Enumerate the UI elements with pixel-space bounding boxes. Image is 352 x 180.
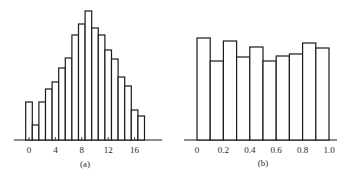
histogram-b: 00.20.40.60.81.0 (b) (184, 38, 337, 168)
bar (250, 47, 263, 140)
bar (112, 59, 119, 140)
tick-label: 16 (130, 145, 140, 155)
bar (72, 35, 79, 140)
tick-label: 12 (104, 145, 113, 155)
tick-label: 0.2 (218, 145, 229, 155)
bar (65, 58, 72, 140)
bar (46, 89, 53, 140)
caption-b: (b) (258, 158, 269, 168)
bar (289, 54, 302, 140)
bar (32, 125, 39, 140)
tick-label: 8 (80, 145, 85, 155)
bar (92, 28, 99, 140)
tick-label: 0 (27, 145, 32, 155)
tick-label: 4 (53, 145, 58, 155)
histogram-a: 0481216 (a) (14, 11, 162, 169)
bar (85, 11, 92, 140)
bar (237, 57, 250, 140)
bar (197, 38, 210, 140)
bar (223, 41, 236, 140)
x-ticks-b: 00.20.40.60.81.0 (195, 145, 335, 155)
caption-a: (a) (80, 159, 90, 169)
bar (316, 48, 329, 140)
bar (79, 24, 86, 140)
bar (210, 61, 223, 140)
tick-label: 0.8 (297, 145, 309, 155)
bar (59, 68, 66, 140)
bar (52, 82, 59, 140)
bar (98, 35, 105, 140)
tick-label: 0 (195, 145, 200, 155)
bar (303, 43, 316, 140)
tick-label: 0.4 (244, 145, 256, 155)
bar (26, 102, 33, 140)
figure: 0481216 (a) 00.20.40.60.81.0 (b) (0, 0, 352, 180)
bar (131, 110, 138, 140)
bar (138, 116, 145, 140)
bars-a (26, 11, 145, 140)
bar (125, 86, 132, 140)
bar (263, 61, 276, 140)
bar (39, 102, 46, 140)
tick-label: 0.6 (271, 145, 283, 155)
bar (276, 56, 289, 140)
tick-label: 1.0 (323, 145, 335, 155)
bar (118, 77, 125, 140)
bar (105, 50, 112, 140)
bars-b (197, 38, 329, 140)
